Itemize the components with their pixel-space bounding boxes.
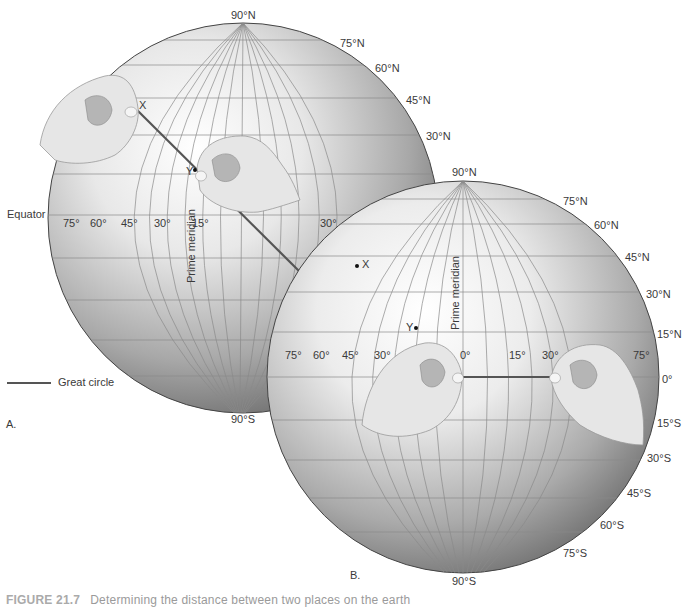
globe-a-prime-meridian-label: Prime meridian bbox=[186, 209, 197, 283]
globe-a-lon-75: 75° bbox=[63, 218, 80, 229]
globe-b-north-pole-label: 90°N bbox=[452, 167, 477, 178]
globe-a-lat-75n: 75°N bbox=[340, 38, 365, 49]
globe-b-lat-30s: 30°S bbox=[647, 453, 671, 464]
globe-a-lon-30-east: 30° bbox=[320, 218, 337, 229]
globe-a-lon-45: 45° bbox=[121, 218, 138, 229]
great-circle-legend-line bbox=[7, 382, 51, 384]
point-y-b bbox=[414, 326, 418, 330]
globe-b-lat-30n: 30°N bbox=[646, 289, 671, 300]
globe-a-lat-45n: 45°N bbox=[406, 95, 431, 106]
globe-a-point-x-label: X bbox=[139, 100, 146, 111]
globe-b-point-y-label: Y bbox=[406, 322, 413, 333]
point-y-a bbox=[193, 168, 197, 172]
globe-a-point-y-label: Y bbox=[186, 166, 193, 177]
globe-b-lon-75e: 75° bbox=[633, 350, 650, 361]
figure-caption: FIGURE 21.7Determining the distance betw… bbox=[6, 593, 410, 607]
figure-caption-number: FIGURE 21.7 bbox=[6, 593, 80, 607]
great-circle-legend-label: Great circle bbox=[58, 377, 114, 388]
globe-b-lon-45w: 45° bbox=[342, 350, 359, 361]
globe-b-lat-15s: 15°S bbox=[657, 418, 681, 429]
globe-a-south-pole-label: 90°S bbox=[231, 414, 255, 425]
globe-b-equator-label: 0° bbox=[662, 374, 673, 385]
globe-b-lat-60n: 60°N bbox=[594, 220, 619, 231]
globe-a-north-pole-label: 90°N bbox=[231, 10, 256, 21]
panel-b-label: B. bbox=[350, 570, 360, 581]
globe-a-lon-60: 60° bbox=[90, 218, 107, 229]
globe-b-lat-75n: 75°N bbox=[563, 196, 588, 207]
globe-b-lat-60s: 60°S bbox=[600, 520, 624, 531]
figure-caption-text: Determining the distance between two pla… bbox=[90, 593, 410, 607]
globe-b-lat-45s: 45°S bbox=[627, 488, 651, 499]
panel-a-label: A. bbox=[6, 419, 16, 430]
globe-b-prime-meridian-label: Prime meridian bbox=[450, 256, 461, 330]
globe-b-south-pole-label: 90°S bbox=[452, 576, 476, 587]
globe-b-lon-30e: 30° bbox=[542, 350, 559, 361]
globe-b-lon-15e: 15° bbox=[509, 350, 526, 361]
point-x-b bbox=[355, 264, 359, 268]
globe-a-lat-30n: 30°N bbox=[426, 131, 451, 142]
globe-a-lat-60n: 60°N bbox=[375, 63, 400, 74]
globe-b-lat-15n: 15°N bbox=[657, 329, 682, 340]
globe-b-lat-75s: 75°S bbox=[563, 548, 587, 559]
globe-b-lon-0: 0° bbox=[460, 350, 471, 361]
globe-b-lon-30w: 30° bbox=[374, 350, 391, 361]
globe-b-lon-75w: 75° bbox=[285, 350, 302, 361]
globe-b-lat-45n: 45°N bbox=[625, 252, 650, 263]
globe-a-lon-30: 30° bbox=[154, 218, 171, 229]
equator-label: Equator bbox=[7, 209, 46, 220]
globe-b-point-x-label: X bbox=[362, 259, 369, 270]
globe-b-lon-60w: 60° bbox=[313, 350, 330, 361]
